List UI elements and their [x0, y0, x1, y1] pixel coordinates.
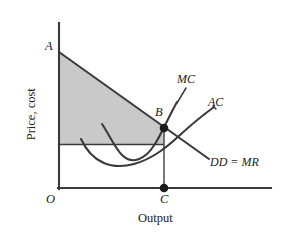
- label-dd-mr-curve: DD = MR: [210, 156, 259, 168]
- mc-leader-line: [177, 88, 186, 103]
- label-point-c: C: [160, 193, 168, 206]
- label-point-b: B: [155, 106, 163, 119]
- shaded-surplus-region: [59, 52, 164, 144]
- point-b-marker: [160, 124, 169, 133]
- y-axis-title: Price, cost: [25, 83, 38, 145]
- point-c-marker: [160, 184, 169, 193]
- label-ac-curve: AC: [208, 96, 223, 108]
- label-point-a: A: [45, 40, 53, 53]
- label-origin: O: [46, 193, 55, 206]
- label-mc-curve: MC: [177, 73, 195, 85]
- economics-diagram-figure: A B C O MC AC DD = MR Output Price, cost: [0, 0, 287, 248]
- x-axis-title: Output: [138, 212, 173, 225]
